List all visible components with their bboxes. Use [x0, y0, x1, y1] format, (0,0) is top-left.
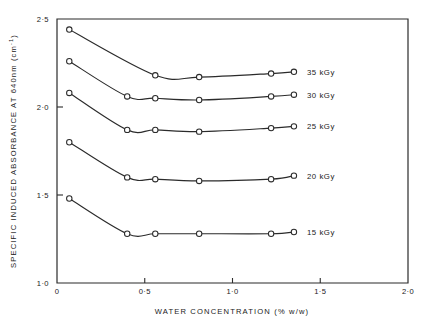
- series-label-15-kgy: 15 kGy: [307, 228, 335, 237]
- data-point-marker: [67, 90, 72, 95]
- data-point-marker: [153, 176, 158, 181]
- data-point-marker: [291, 173, 296, 178]
- data-point-marker: [196, 97, 201, 102]
- series-label-35-kgy: 35 kGy: [307, 68, 335, 77]
- y-tick-label: 1·0: [37, 279, 49, 288]
- data-point-marker: [291, 69, 296, 74]
- data-point-marker: [268, 125, 273, 130]
- series-line: [69, 142, 294, 181]
- data-point-marker: [268, 71, 273, 76]
- plot-frame: [57, 19, 408, 283]
- data-point-marker: [67, 196, 72, 201]
- data-point-marker: [196, 129, 201, 134]
- axes-frame: [57, 19, 408, 283]
- figure-container: 35 kGy30 kGy25 kGy20 kGy15 kGy 00·51·01·…: [0, 0, 439, 325]
- y-axis-title-tail: ): [9, 34, 18, 38]
- data-point-marker: [67, 59, 72, 64]
- series-line: [69, 93, 294, 133]
- y-tick-label: 2·0: [37, 103, 49, 112]
- x-tick-label: 0: [55, 287, 60, 296]
- data-point-marker: [67, 140, 72, 145]
- data-point-marker: [268, 231, 273, 236]
- y-axis-ticks: [57, 107, 63, 195]
- series-label-30-kgy: 30 kGy: [307, 91, 335, 100]
- series-line: [69, 30, 294, 80]
- y-axis-title-main: SPECIFIC INDUCED ABSORBANCE AT 640nm (cm: [9, 45, 18, 268]
- data-point-marker: [67, 27, 72, 32]
- x-tick-label: 0·5: [139, 287, 151, 296]
- data-curves: [69, 30, 294, 237]
- y-tick-label: 1·5: [37, 191, 49, 200]
- x-axis-title: WATER CONCENTRATION (% w/w): [155, 307, 310, 316]
- data-point-marker: [153, 73, 158, 78]
- series-line: [69, 199, 294, 237]
- series-line: [69, 61, 294, 100]
- data-point-marker: [268, 94, 273, 99]
- series-labels: 35 kGy30 kGy25 kGy20 kGy15 kGy: [307, 68, 335, 237]
- data-point-marker: [125, 127, 130, 132]
- data-point-marker: [153, 96, 158, 101]
- y-tick-label: 2·5: [37, 15, 49, 24]
- data-point-marker: [268, 176, 273, 181]
- y-axis-title-superscript: -1: [8, 38, 14, 45]
- data-point-marker: [153, 127, 158, 132]
- data-point-marker: [196, 231, 201, 236]
- data-point-marker: [196, 178, 201, 183]
- data-point-marker: [153, 231, 158, 236]
- x-tick-label: 1·5: [314, 287, 326, 296]
- data-point-marker: [291, 92, 296, 97]
- data-point-marker: [291, 229, 296, 234]
- line-chart: 35 kGy30 kGy25 kGy20 kGy15 kGy 00·51·01·…: [0, 0, 439, 325]
- x-tick-labels: 00·51·01·52·0: [55, 287, 414, 296]
- data-point-marker: [125, 175, 130, 180]
- data-point-marker: [291, 124, 296, 129]
- data-point-marker: [196, 74, 201, 79]
- x-tick-label: 1·0: [226, 287, 238, 296]
- data-point-marker: [125, 231, 130, 236]
- data-point-marker: [125, 94, 130, 99]
- y-tick-labels: 1·01·52·02·5: [37, 15, 49, 288]
- x-axis-ticks: [145, 278, 321, 283]
- y-axis-title: SPECIFIC INDUCED ABSORBANCE AT 640nm (cm…: [8, 34, 18, 268]
- series-label-20-kgy: 20 kGy: [307, 172, 335, 181]
- x-tick-label: 2·0: [402, 287, 414, 296]
- series-label-25-kgy: 25 kGy: [307, 122, 335, 131]
